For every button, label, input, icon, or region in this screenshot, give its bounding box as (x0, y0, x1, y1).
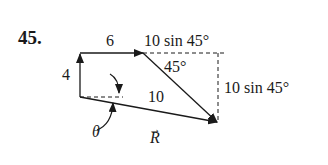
label-6: 6 (106, 33, 114, 49)
resultant-arrow-icon: → (149, 121, 161, 137)
label-resultant: → R (150, 130, 160, 146)
label-4: 4 (62, 67, 70, 83)
label-10-diagonal: 10 (148, 89, 164, 105)
label-10-sin45-horizontal: 10 sin 45° (144, 33, 209, 49)
label-10-sin45-vertical: 10 sin 45° (224, 80, 289, 96)
curved-arrow-upper (110, 74, 119, 93)
label-45-degrees: 45° (164, 59, 186, 75)
label-theta: θ (92, 124, 100, 140)
